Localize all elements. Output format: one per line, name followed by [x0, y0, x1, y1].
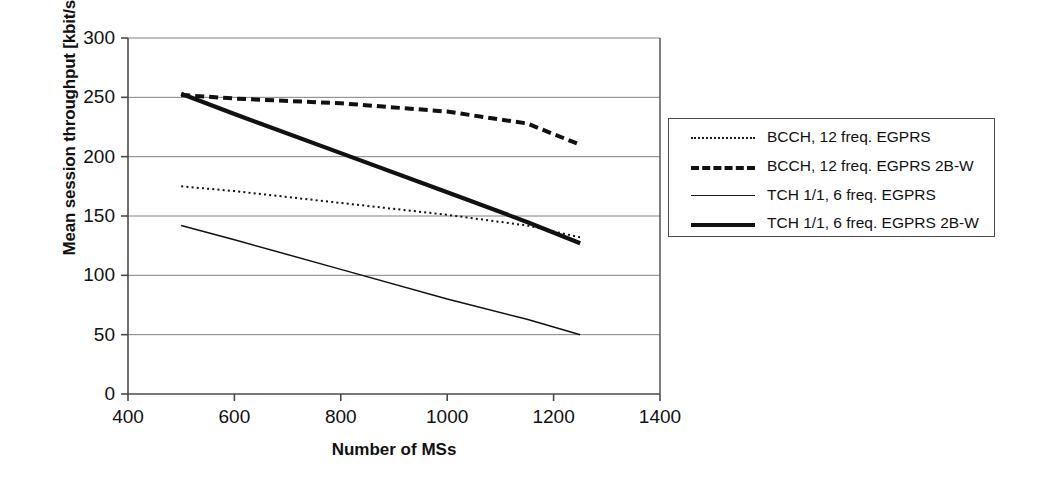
- series-line: [181, 95, 580, 145]
- y-tick-label: 200: [45, 146, 115, 168]
- x-tick-marks: [128, 394, 660, 401]
- legend-label: BCCH, 12 freq. EGPRS: [767, 128, 931, 146]
- series-line: [181, 186, 580, 237]
- x-axis-label: Number of MSs: [128, 440, 660, 460]
- legend-line-dotted-icon: [691, 129, 755, 145]
- chart-legend: BCCH, 12 freq. EGPRS BCCH, 12 freq. EGPR…: [668, 118, 995, 237]
- x-tick-label: 1400: [620, 406, 700, 428]
- legend-item-bcch-egprs-2bw: BCCH, 12 freq. EGPRS 2B-W: [669, 151, 994, 180]
- y-tick-label: 100: [45, 264, 115, 286]
- x-tick-label: 1200: [514, 406, 594, 428]
- y-tick-label: 300: [45, 27, 115, 49]
- gridlines: [128, 38, 660, 335]
- y-tick-label: 50: [45, 324, 115, 346]
- legend-label: TCH 1/1, 6 freq. EGPRS 2B-W: [767, 214, 979, 232]
- legend-label: TCH 1/1, 6 freq. EGPRS: [767, 186, 936, 204]
- data-series: [181, 94, 580, 335]
- series-line: [181, 225, 580, 334]
- legend-item-bcch-egprs: BCCH, 12 freq. EGPRS: [669, 122, 994, 151]
- legend-line-thick-icon: [691, 215, 755, 231]
- legend-line-dashed-icon: [691, 158, 755, 174]
- legend-line-thin-icon: [691, 187, 755, 203]
- chart-figure: Mean session throughput [kbit/s] Number …: [0, 0, 1040, 481]
- y-tick-label: 250: [45, 86, 115, 108]
- x-tick-label: 400: [88, 406, 168, 428]
- legend-item-tch-egprs: TCH 1/1, 6 freq. EGPRS: [669, 180, 994, 209]
- legend-item-tch-egprs-2bw: TCH 1/1, 6 freq. EGPRS 2B-W: [669, 208, 994, 237]
- x-tick-label: 600: [194, 406, 274, 428]
- y-tick-marks: [121, 38, 128, 394]
- legend-label: BCCH, 12 freq. EGPRS 2B-W: [767, 157, 974, 175]
- x-tick-label: 800: [301, 406, 381, 428]
- x-tick-label: 1000: [407, 406, 487, 428]
- series-line: [181, 94, 580, 244]
- y-tick-label: 150: [45, 205, 115, 227]
- y-tick-label: 0: [45, 383, 115, 405]
